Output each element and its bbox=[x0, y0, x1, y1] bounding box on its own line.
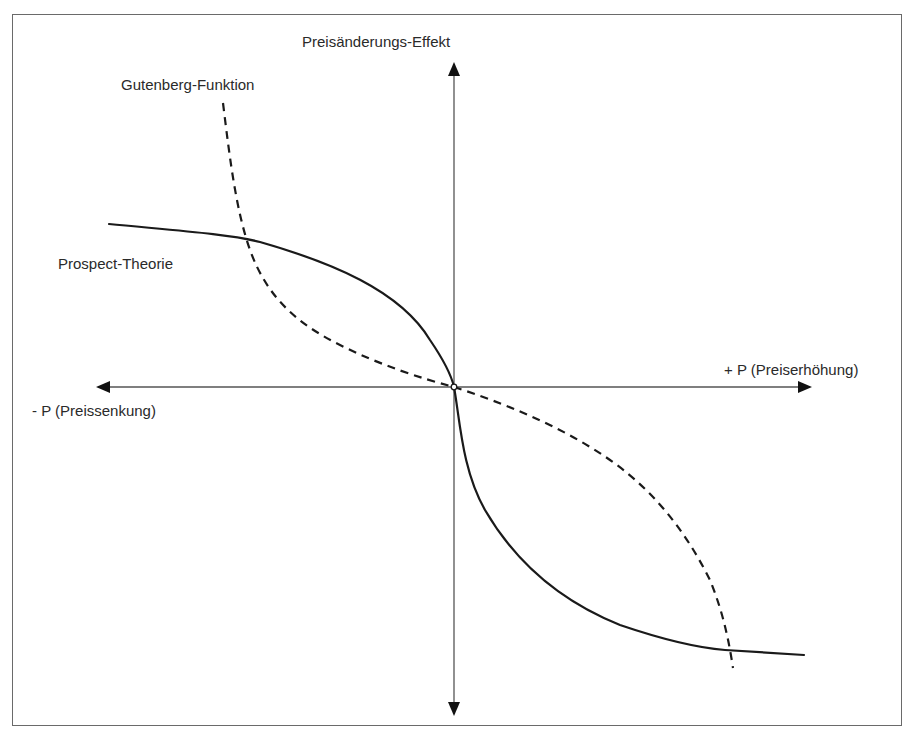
gutenberg-function-curve bbox=[223, 103, 733, 668]
arrow-right-icon bbox=[798, 381, 812, 393]
origin-marker bbox=[451, 384, 457, 390]
arrow-left-icon bbox=[96, 381, 110, 393]
arrow-up-icon bbox=[448, 62, 460, 76]
arrow-down-icon bbox=[448, 702, 460, 716]
y-axis-label: Preisänderungs-Effekt bbox=[302, 34, 450, 49]
gutenberg-function-label: Gutenberg-Funktion bbox=[121, 77, 254, 92]
x-positive-label: + P (Preiserhöhung) bbox=[724, 362, 858, 377]
x-negative-label: - P (Preissenkung) bbox=[32, 403, 156, 418]
prospect-theory-curve bbox=[109, 224, 804, 655]
prospect-theory-label: Prospect-Theorie bbox=[58, 256, 173, 271]
